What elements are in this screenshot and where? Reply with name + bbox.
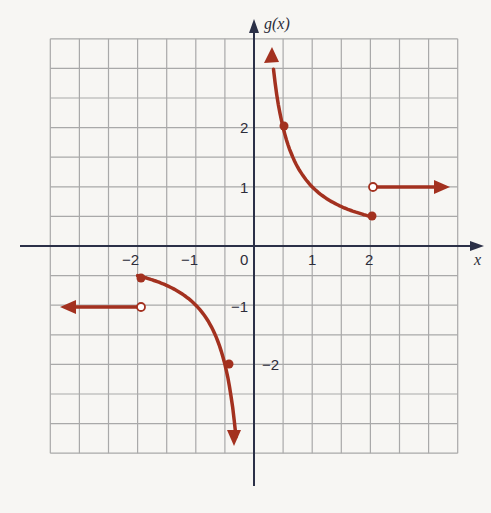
right-arrow-icon <box>434 180 450 194</box>
closed-point-2-half <box>368 212 377 221</box>
left-reciprocal-branch <box>138 276 236 437</box>
origin-label: 0 <box>240 251 248 268</box>
y-tick-label-neg1: −1 <box>231 298 248 315</box>
x-axis-arrow-icon <box>470 241 484 251</box>
function-graph: g(x) x 0 −2 −1 1 2 2 1 −1 −2 <box>0 0 491 513</box>
down-arrow-icon <box>227 430 241 446</box>
left-arrow-icon <box>60 300 76 314</box>
x-tick-label-2: 2 <box>365 251 373 268</box>
x-axis-label: x <box>473 251 481 268</box>
closed-point-neg2-neghalf <box>137 274 146 283</box>
closed-point-neghalf-neg2 <box>225 360 234 369</box>
y-tick-label-2: 2 <box>240 119 248 136</box>
x-tick-label-1: 1 <box>308 251 316 268</box>
up-arrow-icon <box>264 47 279 63</box>
y-tick-label-1: 1 <box>240 179 248 196</box>
y-tick-label-neg2: −2 <box>262 356 279 373</box>
x-tick-label-neg1: −1 <box>181 251 198 268</box>
open-point-2-1 <box>369 183 377 191</box>
right-reciprocal-branch <box>274 69 371 216</box>
closed-point-half-2 <box>280 122 289 131</box>
y-axis-label: g(x) <box>264 15 290 33</box>
y-axis-arrow-icon <box>249 19 259 33</box>
x-tick-label-neg2: −2 <box>122 251 139 268</box>
open-point-neg2-neg1 <box>137 303 145 311</box>
axes <box>20 19 484 486</box>
